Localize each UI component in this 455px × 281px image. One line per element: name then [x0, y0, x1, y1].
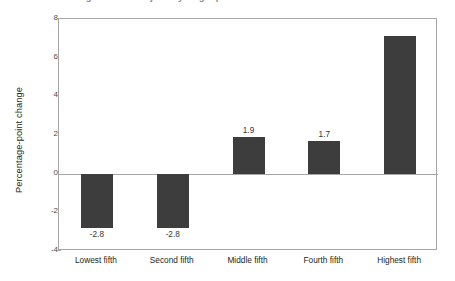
bar[interactable]	[81, 174, 113, 228]
y-tick-label: 6	[42, 53, 58, 61]
y-tick-mark	[58, 250, 61, 251]
bar-value-label: -2.8	[77, 230, 117, 239]
x-axis-label: Fourth fifth	[283, 255, 363, 265]
clipped-title-strip: Change in share of jobs by wage quintile	[0, 0, 455, 7]
x-axis-label: Highest fifth	[359, 255, 439, 265]
bar-value-label: 1.7	[304, 130, 344, 139]
bar[interactable]	[157, 174, 189, 228]
chart-title-clipped: Change in share of jobs by wage quintile	[62, 0, 246, 2]
y-tick-label: -4	[42, 246, 58, 254]
x-axis-label: Lowest fifth	[56, 255, 136, 265]
x-axis-label: Middle fifth	[208, 255, 288, 265]
y-tick-label: 2	[42, 130, 58, 138]
bar-value-label: -2.8	[153, 230, 193, 239]
bar[interactable]	[384, 36, 416, 173]
bar-value-label: 1.9	[229, 126, 269, 135]
bar[interactable]	[233, 137, 265, 174]
zero-baseline	[59, 174, 438, 175]
x-axis-label: Second fifth	[132, 255, 212, 265]
y-tick-label: -2	[42, 207, 58, 215]
bar[interactable]	[308, 141, 340, 174]
y-axis-title: Percentage-point change	[14, 50, 24, 230]
plot-area: -2.8-2.81.91.7	[58, 18, 437, 250]
y-tick-label: 4	[42, 91, 58, 99]
x-axis-category-labels: Lowest fifthSecond fifthMiddle fifthFour…	[58, 255, 437, 269]
y-tick-label: 0	[42, 169, 58, 177]
y-axis-tick-labels: 86420-2-4	[38, 18, 58, 250]
y-tick-label: 8	[42, 14, 58, 22]
